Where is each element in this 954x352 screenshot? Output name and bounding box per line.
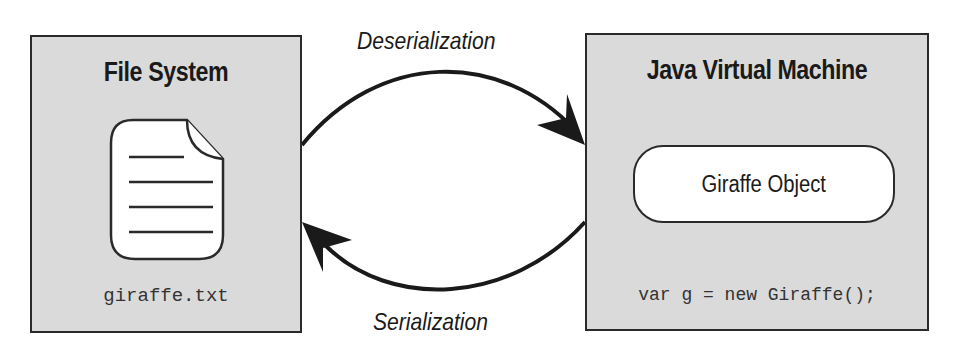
deserialization-arrow: [302, 72, 575, 145]
file-name-label: giraffe.txt: [32, 285, 300, 307]
jvm-title: Java Virtual Machine: [611, 55, 903, 86]
file-system-box: File System giraffe.txt: [30, 35, 302, 333]
file-system-title: File System: [51, 57, 281, 88]
giraffe-object-node: Giraffe Object: [633, 145, 895, 223]
giraffe-object-label: Giraffe Object: [702, 171, 827, 198]
document-icon: [107, 117, 227, 262]
deserialization-label: Deserialization: [357, 27, 496, 55]
serialization-label: Serialization: [373, 308, 488, 336]
serialization-arrow: [325, 222, 585, 289]
code-snippet: var g = new Giraffe();: [587, 285, 927, 305]
jvm-box: Java Virtual Machine Giraffe Object var …: [585, 33, 929, 331]
